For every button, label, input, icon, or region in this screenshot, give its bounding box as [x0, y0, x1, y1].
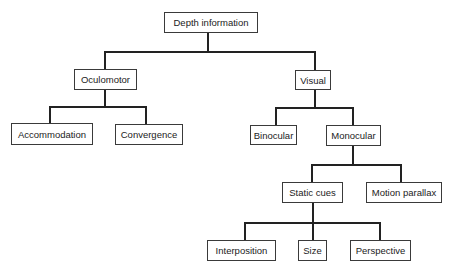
node-label: Accommodation: [18, 129, 86, 140]
vertical-connector: [311, 164, 313, 182]
vertical-connector: [379, 222, 381, 240]
node-size: Size: [298, 240, 327, 261]
horizontal-connector: [49, 106, 147, 108]
node-label: Binocular: [254, 130, 294, 141]
node-label: Interposition: [216, 245, 268, 256]
horizontal-connector: [275, 107, 354, 109]
vertical-connector: [352, 146, 354, 165]
vertical-connector: [49, 106, 51, 123]
vertical-connector: [312, 203, 314, 223]
vertical-connector: [314, 51, 316, 70]
node-static-cues: Static cues: [282, 182, 343, 203]
vertical-connector: [104, 90, 106, 107]
vertical-connector: [312, 222, 314, 240]
vertical-connector: [314, 90, 316, 107]
vertical-connector: [400, 164, 402, 182]
node-label: Depth information: [174, 17, 249, 28]
node-depth-information: Depth information: [164, 12, 258, 33]
node-label: Size: [303, 245, 321, 256]
node-label: Oculomotor: [81, 74, 130, 85]
vertical-connector: [104, 51, 106, 69]
node-label: Visual: [300, 75, 326, 86]
node-label: Monocular: [331, 130, 375, 141]
node-convergence: Convergence: [115, 124, 183, 145]
depth-cues-tree-diagram: Depth information Oculomotor Visual Acco…: [0, 0, 454, 273]
node-oculomotor: Oculomotor: [74, 69, 137, 90]
node-monocular: Monocular: [326, 125, 381, 146]
vertical-connector: [145, 106, 147, 124]
node-label: Static cues: [289, 187, 335, 198]
node-accommodation: Accommodation: [11, 123, 93, 145]
vertical-connector: [244, 222, 246, 240]
node-interposition: Interposition: [207, 240, 276, 261]
vertical-connector: [352, 107, 354, 125]
horizontal-connector: [104, 51, 316, 53]
node-label: Motion parallax: [372, 187, 436, 198]
node-label: Convergence: [121, 129, 178, 140]
horizontal-connector: [311, 164, 402, 166]
node-visual: Visual: [295, 70, 331, 90]
node-perspective: Perspective: [350, 240, 411, 261]
node-label: Perspective: [356, 245, 406, 256]
vertical-connector: [207, 33, 209, 52]
node-motion-parallax: Motion parallax: [366, 182, 442, 203]
node-binocular: Binocular: [250, 125, 297, 145]
vertical-connector: [275, 107, 277, 125]
